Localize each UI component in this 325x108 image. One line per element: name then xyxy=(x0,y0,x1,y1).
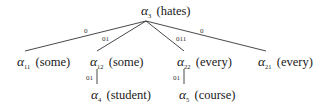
node-word: (student) xyxy=(106,88,150,102)
node-subscript: 21 xyxy=(265,63,272,70)
node-subscript: 5 xyxy=(186,96,189,103)
node-word: (hates) xyxy=(156,4,190,18)
node-word: (every) xyxy=(277,55,313,69)
node-alpha22-every: α22 (every) xyxy=(177,55,232,74)
edge-label-root-n11: 0 xyxy=(84,27,88,35)
edge-root-n21 xyxy=(146,21,266,51)
edge-label-root-n12: 01 xyxy=(102,35,109,43)
node-word: (every) xyxy=(196,55,232,69)
node-word: (some) xyxy=(35,55,70,69)
node-subscript: 4 xyxy=(98,96,101,103)
edge-root-n11 xyxy=(25,21,146,51)
node-alpha11-some: α11 (some) xyxy=(17,55,70,74)
node-alpha5-course: α5 (course) xyxy=(179,88,235,107)
node-root-hates: α3 (hates) xyxy=(141,4,190,23)
edge-label-n12-n4: 01 xyxy=(86,74,93,82)
edge-label-root-n22: 011 xyxy=(176,35,186,43)
node-subscript: 22 xyxy=(184,63,191,70)
node-alpha4-student: α4 (student) xyxy=(91,88,151,107)
node-subscript: 11 xyxy=(24,63,30,70)
edge-label-root-n21: 0 xyxy=(200,27,204,35)
node-alpha21-every: α21 (every) xyxy=(258,55,313,74)
node-subscript: 12 xyxy=(97,63,104,70)
node-word: (some) xyxy=(109,55,144,69)
node-subscript: 3 xyxy=(148,12,151,19)
node-alpha12-some: α12 (some) xyxy=(90,55,143,74)
edge-label-n22-n5: 01 xyxy=(173,74,180,82)
node-word: (course) xyxy=(194,88,235,102)
